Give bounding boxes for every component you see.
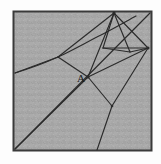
vertex-node-lower (111, 105, 114, 108)
geometry-figure: A (0, 0, 161, 164)
label-point-a: A (77, 72, 85, 84)
figure-canvas: A (0, 0, 161, 164)
vertex-node-a (86, 75, 89, 78)
vertex-node-right (147, 47, 150, 50)
vertex-apex-top (112, 11, 115, 14)
